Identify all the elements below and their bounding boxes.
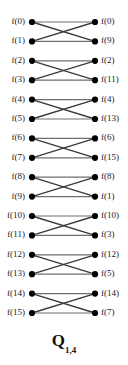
graph-node-left bbox=[29, 116, 35, 122]
graph-node-left bbox=[29, 19, 35, 25]
node-label-left: f(13) bbox=[0, 269, 25, 278]
graph-node-left bbox=[29, 232, 35, 238]
graph-node-right bbox=[92, 291, 98, 297]
caption-subscript: 1,4 bbox=[65, 345, 76, 355]
edges-group bbox=[32, 22, 95, 313]
graph-node-right bbox=[92, 213, 98, 219]
graph-node-right bbox=[92, 116, 98, 122]
left-nodes-group bbox=[29, 19, 35, 316]
graph-node-right bbox=[92, 58, 98, 64]
figure-caption: Q1,4 bbox=[0, 331, 128, 352]
node-label-left: f(11) bbox=[0, 230, 25, 239]
graph-node-left bbox=[29, 135, 35, 141]
graph-node-right bbox=[92, 271, 98, 277]
node-label-left: f(1) bbox=[0, 36, 25, 45]
node-label-left: f(15) bbox=[0, 308, 25, 317]
node-label-left: f(4) bbox=[0, 95, 25, 104]
node-label-right: f(5) bbox=[101, 269, 115, 278]
graph-node-left bbox=[29, 194, 35, 200]
node-label-right: f(9) bbox=[101, 36, 115, 45]
graph-canvas bbox=[0, 0, 128, 330]
node-label-right: f(10) bbox=[101, 211, 119, 220]
node-label-left: f(12) bbox=[0, 250, 25, 259]
node-label-right: f(4) bbox=[101, 95, 115, 104]
graph-node-left bbox=[29, 310, 35, 316]
graph-node-right bbox=[92, 155, 98, 161]
graph-node-left bbox=[29, 155, 35, 161]
graph-node-left bbox=[29, 77, 35, 83]
graph-node-right bbox=[92, 252, 98, 258]
node-label-left: f(2) bbox=[0, 56, 25, 65]
node-label-right: f(15) bbox=[101, 153, 119, 162]
node-label-right: f(1) bbox=[101, 192, 115, 201]
graph-node-right bbox=[92, 77, 98, 83]
graph-node-left bbox=[29, 174, 35, 180]
graph-node-right bbox=[92, 38, 98, 44]
graph-node-left bbox=[29, 291, 35, 297]
butterfly-network-figure: f(0)f(1)f(2)f(3)f(4)f(5)f(6)f(7)f(8)f(9)… bbox=[0, 0, 128, 365]
right-nodes-group bbox=[92, 19, 98, 316]
node-label-right: f(6) bbox=[101, 133, 115, 142]
graph-node-left bbox=[29, 213, 35, 219]
node-label-left: f(5) bbox=[0, 114, 25, 123]
node-label-right: f(13) bbox=[101, 114, 119, 123]
node-label-right: f(3) bbox=[101, 230, 115, 239]
node-label-left: f(7) bbox=[0, 153, 25, 162]
node-label-right: f(11) bbox=[101, 75, 119, 84]
graph-node-right bbox=[92, 135, 98, 141]
graph-node-right bbox=[92, 174, 98, 180]
node-label-left: f(0) bbox=[0, 17, 25, 26]
node-label-right: f(8) bbox=[101, 172, 115, 181]
graph-node-left bbox=[29, 271, 35, 277]
graph-node-right bbox=[92, 310, 98, 316]
graph-node-right bbox=[92, 19, 98, 25]
node-label-right: f(12) bbox=[101, 250, 119, 259]
node-label-left: f(9) bbox=[0, 192, 25, 201]
graph-node-left bbox=[29, 97, 35, 103]
graph-node-left bbox=[29, 58, 35, 64]
node-label-right: f(0) bbox=[101, 17, 115, 26]
graph-node-right bbox=[92, 232, 98, 238]
node-label-right: f(2) bbox=[101, 56, 115, 65]
node-label-left: f(8) bbox=[0, 172, 25, 181]
graph-node-left bbox=[29, 38, 35, 44]
node-label-left: f(3) bbox=[0, 75, 25, 84]
node-label-left: f(14) bbox=[0, 289, 25, 298]
node-label-right: f(14) bbox=[101, 289, 119, 298]
graph-node-right bbox=[92, 97, 98, 103]
node-label-left: f(10) bbox=[0, 211, 25, 220]
graph-node-left bbox=[29, 252, 35, 258]
node-label-left: f(6) bbox=[0, 133, 25, 142]
graph-node-right bbox=[92, 194, 98, 200]
caption-symbol: Q bbox=[52, 331, 65, 350]
node-label-right: f(7) bbox=[101, 308, 115, 317]
